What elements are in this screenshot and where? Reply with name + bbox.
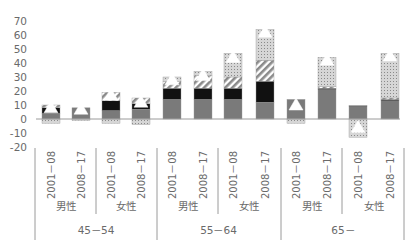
bar-segment — [102, 119, 120, 123]
y-tick-label: 70 — [14, 15, 27, 27]
bar-segment — [194, 99, 212, 119]
y-tick-label: -20 — [10, 141, 27, 153]
x-axis-labels: 2001－082008－172001－082008－172001－082008－… — [35, 148, 404, 240]
sex-label: 男性 — [302, 200, 322, 212]
x-period-label: 2008－17 — [198, 151, 209, 199]
bar-segment — [132, 119, 150, 125]
bar-segment — [163, 99, 181, 119]
sex-label: 女性 — [116, 200, 136, 212]
bar-segment — [42, 113, 60, 119]
x-period-label: 2001－08 — [291, 151, 302, 199]
bar-segment — [102, 101, 120, 111]
y-tick-label: 30 — [14, 71, 27, 83]
x-period-label: 2001－08 — [353, 151, 364, 199]
y-tick-label: 20 — [14, 85, 27, 97]
y-tick-label: 10 — [14, 99, 27, 111]
bar-segment — [349, 106, 367, 107]
y-tick-label: 60 — [14, 29, 27, 41]
stacked-bar-chart: 706050403020100-10-20 2001－082008－172001… — [0, 0, 414, 244]
bar-segment — [349, 106, 367, 119]
triangle-markers — [44, 25, 397, 132]
bar-segment — [381, 99, 399, 100]
bar-segment — [163, 88, 181, 99]
sex-label: 男性 — [56, 200, 76, 212]
bar-segment — [287, 119, 305, 123]
bar-segment — [132, 109, 150, 119]
x-period-label: 2001－08 — [167, 151, 178, 199]
bar-segment — [256, 102, 274, 119]
bar-segment — [318, 90, 336, 119]
x-period-label: 2001－08 — [106, 151, 117, 199]
x-period-label: 2008－17 — [260, 151, 271, 199]
y-tick-label: 50 — [14, 43, 27, 55]
bar-segment — [256, 81, 274, 102]
sex-label: 女性 — [364, 200, 384, 212]
bar-segment — [224, 77, 242, 88]
x-period-label: 2008－17 — [385, 151, 396, 199]
bar-segment — [42, 119, 60, 123]
bar-segment — [318, 88, 336, 89]
bar-segment — [381, 98, 399, 99]
sex-label: 女性 — [239, 200, 259, 212]
bars — [42, 29, 399, 137]
x-period-label: 2008－17 — [76, 151, 87, 199]
bar-segment — [224, 99, 242, 119]
chart-canvas: 706050403020100-10-20 2001－082008－172001… — [0, 0, 414, 244]
bar-segment — [102, 111, 120, 119]
age-group-label: 45－54 — [78, 224, 115, 236]
y-axis: 706050403020100-10-20 — [10, 15, 27, 153]
y-tick-label: 40 — [14, 57, 27, 69]
bar-segment — [224, 88, 242, 99]
x-period-label: 2008－17 — [136, 151, 147, 199]
bar-segment — [318, 87, 336, 88]
age-group-label: 55－64 — [200, 224, 237, 236]
x-period-label: 2001－08 — [46, 151, 57, 199]
y-tick-label: 0 — [20, 113, 27, 125]
age-group-label: 65－ — [331, 224, 354, 236]
bar-segment — [194, 88, 212, 99]
bar-segment — [381, 101, 399, 119]
x-period-label: 2008－17 — [322, 151, 333, 199]
x-period-label: 2001－08 — [228, 151, 239, 199]
sex-label: 男性 — [178, 200, 198, 212]
y-tick-label: -10 — [10, 127, 27, 139]
bar-segment — [256, 60, 274, 81]
